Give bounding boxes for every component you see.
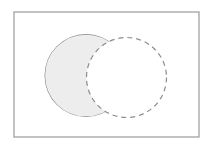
figure-container: Set difference Venn diagram Two overlapp…	[0, 0, 212, 147]
venn-diagram-svg: Set difference Venn diagram Two overlapp…	[0, 0, 212, 147]
